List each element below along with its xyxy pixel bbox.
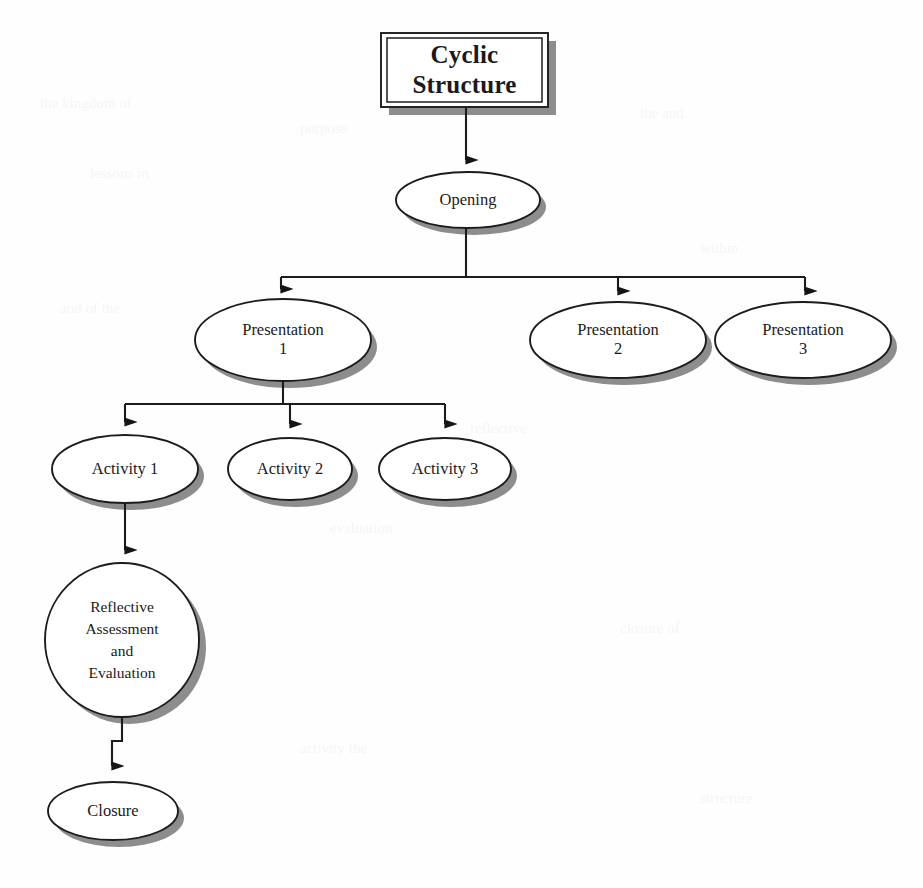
title-box-shape <box>381 33 548 107</box>
diagram-canvas: the kingdom of purpose the and lessons i… <box>0 0 923 888</box>
node-shape-layer <box>45 33 891 840</box>
diagram-vector-layer <box>0 0 923 888</box>
edge-reflective-to-closure <box>112 717 122 766</box>
reflective-shape <box>45 563 199 717</box>
closure-shape <box>48 782 178 840</box>
presentation1-shape <box>195 299 371 381</box>
presentation3-shape <box>715 302 891 378</box>
presentation2-shape <box>530 302 706 378</box>
activity1-shape <box>52 435 198 503</box>
opening-shape <box>396 172 540 228</box>
activity3-shape <box>379 438 511 500</box>
activity2-shape <box>228 438 352 500</box>
